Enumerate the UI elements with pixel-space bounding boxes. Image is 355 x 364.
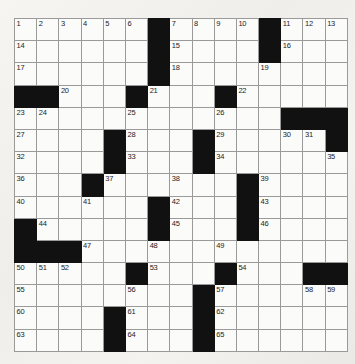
crossword-cell[interactable]	[103, 41, 125, 63]
crossword-cell[interactable]: 47	[81, 240, 103, 262]
crossword-cell[interactable]: 1	[15, 19, 37, 41]
crossword-cell[interactable]: 59	[325, 285, 347, 307]
crossword-cell[interactable]: 30	[281, 129, 303, 151]
crossword-cell[interactable]	[103, 263, 125, 285]
crossword-cell[interactable]: 3	[59, 19, 81, 41]
crossword-cell[interactable]	[125, 63, 147, 85]
crossword-cell[interactable]	[148, 307, 170, 329]
crossword-grid[interactable]: 1234567891011121314151617181920212223242…	[14, 18, 348, 352]
crossword-cell[interactable]	[59, 174, 81, 196]
crossword-cell[interactable]: 48	[148, 240, 170, 262]
crossword-cell[interactable]	[281, 174, 303, 196]
crossword-cell[interactable]	[103, 285, 125, 307]
crossword-cell[interactable]	[214, 218, 236, 240]
crossword-cell[interactable]	[170, 107, 192, 129]
crossword-cell[interactable]	[281, 285, 303, 307]
crossword-cell[interactable]	[259, 85, 281, 107]
crossword-cell[interactable]: 25	[125, 107, 147, 129]
crossword-cell[interactable]	[259, 285, 281, 307]
crossword-cell[interactable]	[192, 174, 214, 196]
crossword-cell[interactable]	[170, 129, 192, 151]
crossword-cell[interactable]	[214, 196, 236, 218]
crossword-cell[interactable]	[59, 218, 81, 240]
crossword-cell[interactable]: 55	[15, 285, 37, 307]
crossword-cell[interactable]	[81, 152, 103, 174]
crossword-cell[interactable]: 19	[259, 63, 281, 85]
crossword-cell[interactable]	[59, 63, 81, 85]
crossword-cell[interactable]	[281, 240, 303, 262]
crossword-cell[interactable]	[170, 285, 192, 307]
crossword-cell[interactable]: 18	[170, 63, 192, 85]
crossword-cell[interactable]	[325, 307, 347, 329]
crossword-cell[interactable]	[236, 129, 258, 151]
crossword-cell[interactable]	[214, 174, 236, 196]
crossword-cell[interactable]	[81, 41, 103, 63]
crossword-cell[interactable]	[192, 107, 214, 129]
crossword-cell[interactable]	[125, 41, 147, 63]
crossword-cell[interactable]	[325, 240, 347, 262]
crossword-cell[interactable]	[303, 85, 325, 107]
crossword-cell[interactable]	[192, 263, 214, 285]
crossword-cell[interactable]	[236, 152, 258, 174]
crossword-cell[interactable]: 65	[214, 329, 236, 351]
crossword-cell[interactable]	[59, 129, 81, 151]
crossword-cell[interactable]: 21	[148, 85, 170, 107]
crossword-cell[interactable]	[281, 218, 303, 240]
crossword-cell[interactable]	[81, 129, 103, 151]
crossword-cell[interactable]	[170, 329, 192, 351]
crossword-cell[interactable]	[303, 329, 325, 351]
crossword-cell[interactable]	[325, 85, 347, 107]
crossword-cell[interactable]	[259, 240, 281, 262]
crossword-cell[interactable]	[59, 196, 81, 218]
crossword-cell[interactable]: 45	[170, 218, 192, 240]
crossword-cell[interactable]	[170, 152, 192, 174]
crossword-cell[interactable]	[325, 329, 347, 351]
crossword-cell[interactable]	[103, 218, 125, 240]
crossword-cell[interactable]: 53	[148, 263, 170, 285]
crossword-cell[interactable]	[281, 329, 303, 351]
crossword-cell[interactable]: 42	[170, 196, 192, 218]
crossword-cell[interactable]	[148, 107, 170, 129]
crossword-cell[interactable]: 9	[214, 19, 236, 41]
crossword-cell[interactable]: 63	[15, 329, 37, 351]
crossword-cell[interactable]	[103, 196, 125, 218]
crossword-cell[interactable]	[281, 63, 303, 85]
crossword-cell[interactable]: 5	[103, 19, 125, 41]
crossword-cell[interactable]: 34	[214, 152, 236, 174]
crossword-cell[interactable]	[281, 307, 303, 329]
crossword-cell[interactable]	[125, 218, 147, 240]
crossword-cell[interactable]	[214, 41, 236, 63]
crossword-cell[interactable]	[325, 218, 347, 240]
crossword-cell[interactable]	[125, 174, 147, 196]
crossword-cell[interactable]	[259, 329, 281, 351]
crossword-cell[interactable]	[37, 196, 59, 218]
crossword-cell[interactable]	[103, 63, 125, 85]
crossword-cell[interactable]	[125, 196, 147, 218]
crossword-cell[interactable]	[303, 307, 325, 329]
crossword-cell[interactable]	[59, 152, 81, 174]
crossword-cell[interactable]	[148, 174, 170, 196]
crossword-cell[interactable]	[192, 41, 214, 63]
crossword-cell[interactable]: 44	[37, 218, 59, 240]
crossword-cell[interactable]: 2	[37, 19, 59, 41]
crossword-cell[interactable]: 27	[15, 129, 37, 151]
crossword-cell[interactable]: 61	[125, 307, 147, 329]
crossword-cell[interactable]: 15	[170, 41, 192, 63]
crossword-cell[interactable]: 11	[281, 19, 303, 41]
crossword-cell[interactable]	[103, 107, 125, 129]
crossword-cell[interactable]: 43	[259, 196, 281, 218]
crossword-cell[interactable]: 40	[15, 196, 37, 218]
crossword-cell[interactable]	[259, 307, 281, 329]
crossword-cell[interactable]	[281, 263, 303, 285]
crossword-cell[interactable]	[303, 63, 325, 85]
crossword-cell[interactable]	[148, 129, 170, 151]
crossword-cell[interactable]: 16	[281, 41, 303, 63]
crossword-cell[interactable]	[281, 152, 303, 174]
crossword-cell[interactable]	[192, 218, 214, 240]
crossword-cell[interactable]	[81, 218, 103, 240]
crossword-cell[interactable]	[37, 285, 59, 307]
crossword-cell[interactable]: 56	[125, 285, 147, 307]
crossword-cell[interactable]	[59, 329, 81, 351]
crossword-cell[interactable]	[81, 85, 103, 107]
crossword-cell[interactable]	[192, 240, 214, 262]
